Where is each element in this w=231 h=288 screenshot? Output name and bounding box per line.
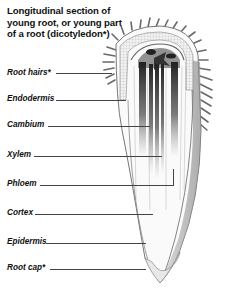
leader-endodermis xyxy=(56,100,126,101)
label-cambium: Cambium xyxy=(7,120,44,130)
label-endodermis: Endodermis xyxy=(7,94,54,104)
label-root-cap: Root cap* xyxy=(7,263,45,273)
leader-root-hairs xyxy=(56,73,112,74)
leader-phloem xyxy=(40,185,174,186)
label-cortex: Cortex xyxy=(7,208,33,218)
leader-epidermis xyxy=(46,243,146,244)
leader-phloem-vertical xyxy=(173,169,174,186)
leader-xylem xyxy=(34,156,162,157)
leader-root-cap xyxy=(50,269,146,270)
label-phloem: Phloem xyxy=(7,179,37,189)
label-root-hairs: Root hairs* xyxy=(7,68,51,78)
leader-cambium xyxy=(48,126,150,127)
leader-cortex xyxy=(35,214,153,215)
label-epidermis: Epidermis xyxy=(7,237,47,247)
label-xylem: Xylem xyxy=(7,150,31,160)
